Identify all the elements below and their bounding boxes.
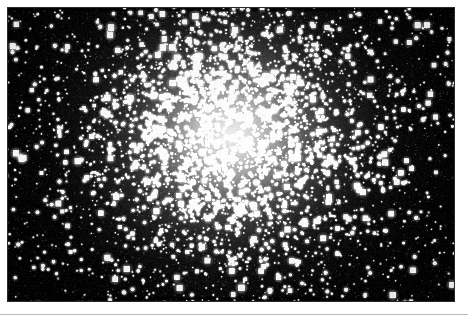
page-canvas xyxy=(0,0,468,320)
horizontal-rule xyxy=(0,314,468,315)
star-field-canvas xyxy=(7,7,455,302)
globular-cluster-photograph xyxy=(7,7,455,302)
